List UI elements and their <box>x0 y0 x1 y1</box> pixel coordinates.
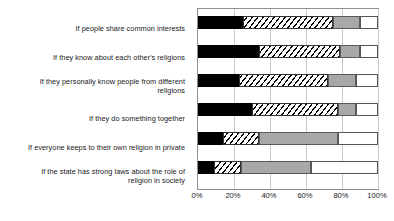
category-label-0: If people share common interests <box>0 24 185 33</box>
bar-segment-1 <box>198 74 239 87</box>
bar-segment-3 <box>338 103 356 116</box>
x-tick-label-100: 100% <box>367 191 386 200</box>
bar-segment-1 <box>198 45 259 58</box>
category-label-5-line-0: If the state has strong laws about the r… <box>41 167 185 176</box>
category-label-4: If everyone keeps to their own religion … <box>0 143 185 152</box>
bar-row <box>198 16 378 29</box>
bar-row <box>198 132 378 145</box>
category-label-2: If they personally know people from diff… <box>0 77 185 95</box>
bar-segment-4 <box>360 45 378 58</box>
bar-segment-4 <box>356 103 378 116</box>
bar-segment-2 <box>243 16 333 29</box>
category-label-1: If they know about each other's religion… <box>0 53 185 62</box>
category-label-5: If the state has strong laws about the r… <box>0 167 185 185</box>
bar-segment-3 <box>333 16 360 29</box>
bar-segment-1 <box>198 103 252 116</box>
bar-row <box>198 74 378 87</box>
stacked-bar-chart: If people share common interests If they… <box>0 0 394 221</box>
bar-row <box>198 161 378 174</box>
category-label-3-line-0: If they do something together <box>89 114 185 123</box>
bar-segment-4 <box>311 161 378 174</box>
bar-segment-4 <box>338 132 378 145</box>
bar-segment-2 <box>239 74 327 87</box>
bar-row <box>198 45 378 58</box>
bar-segment-2 <box>252 103 338 116</box>
plot-area <box>197 8 379 190</box>
x-tick-label-80: 80% <box>333 191 348 200</box>
bar-segment-1 <box>198 161 214 174</box>
x-tick-label-60: 60% <box>297 191 312 200</box>
bar-segment-3 <box>241 161 311 174</box>
category-label-4-line-0: If everyone keeps to their own religion … <box>28 143 185 152</box>
bar-segment-2 <box>223 132 259 145</box>
bar-segment-1 <box>198 16 243 29</box>
category-label-0-line-0: If people share common interests <box>76 24 186 33</box>
bar-segment-2 <box>214 161 241 174</box>
bar-segment-3 <box>340 45 360 58</box>
bar-segment-4 <box>360 16 378 29</box>
bar-segment-3 <box>259 132 338 145</box>
category-labels: If people share common interests If they… <box>0 8 191 188</box>
category-label-3: If they do something together <box>0 114 185 123</box>
gridline-100 <box>378 9 379 189</box>
bar-segment-3 <box>328 74 357 87</box>
bar-segment-1 <box>198 132 223 145</box>
category-label-1-line-0: If they know about each other's religion… <box>53 53 185 62</box>
x-axis: 0%20%40%60%80%100% <box>197 191 378 207</box>
x-tick-label-40: 40% <box>261 191 276 200</box>
bar-segment-2 <box>259 45 340 58</box>
category-label-5-line-1: religion in society <box>128 176 185 185</box>
bar-row <box>198 103 378 116</box>
category-label-2-line-1: religions <box>157 86 185 95</box>
x-tick-label-20: 20% <box>225 191 240 200</box>
category-label-2-line-0: If they personally know people from diff… <box>40 77 185 86</box>
bar-segment-4 <box>356 74 378 87</box>
x-tick-label-0: 0% <box>192 191 203 200</box>
